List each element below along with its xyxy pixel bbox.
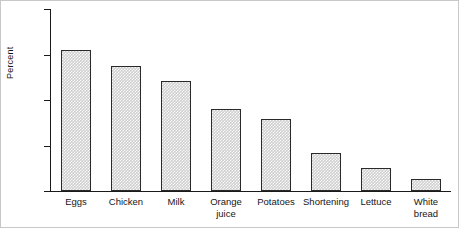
bar <box>111 66 141 191</box>
bar-column <box>61 9 91 191</box>
y-axis-tick-mark <box>44 55 50 56</box>
x-axis-label: Chicken <box>101 196 151 208</box>
y-axis-tick-mark <box>44 146 50 147</box>
bar-column <box>111 9 141 191</box>
bar-column <box>311 9 341 191</box>
y-axis-tick-mark <box>44 100 50 101</box>
x-axis-label: Orange juice <box>201 196 251 219</box>
y-axis-tick: 60 <box>1 55 50 56</box>
y-axis-tick: 0 <box>1 191 50 192</box>
bar <box>161 81 191 191</box>
y-axis-tick: 20 <box>1 146 50 147</box>
bar-column <box>211 9 241 191</box>
bar <box>311 153 341 191</box>
y-axis-tick-mark <box>44 191 50 192</box>
x-axis-line <box>50 191 451 192</box>
x-axis-label: Shortening <box>301 196 351 208</box>
plot-area <box>51 9 451 191</box>
x-axis-label: Eggs <box>51 196 101 208</box>
bar-column <box>161 9 191 191</box>
x-axis-label: Potatoes <box>251 196 301 208</box>
bar-column <box>411 9 441 191</box>
bar <box>211 109 241 191</box>
x-axis-label: Milk <box>151 196 201 208</box>
y-axis-title: Percent <box>5 65 15 79</box>
y-axis-tick: 40 <box>1 100 50 101</box>
bar <box>61 50 91 191</box>
bar-column <box>361 9 391 191</box>
y-axis-tick-mark <box>44 9 50 10</box>
bar-chart-figure: Percent 020406080 EggsChickenMilkOrange … <box>0 0 459 228</box>
y-axis-tick: 80 <box>1 9 50 10</box>
bar <box>261 119 291 191</box>
bar <box>411 179 441 192</box>
bar <box>361 168 391 191</box>
bar-column <box>261 9 291 191</box>
x-axis-label: White bread <box>401 196 451 219</box>
x-axis-label: Lettuce <box>351 196 401 208</box>
